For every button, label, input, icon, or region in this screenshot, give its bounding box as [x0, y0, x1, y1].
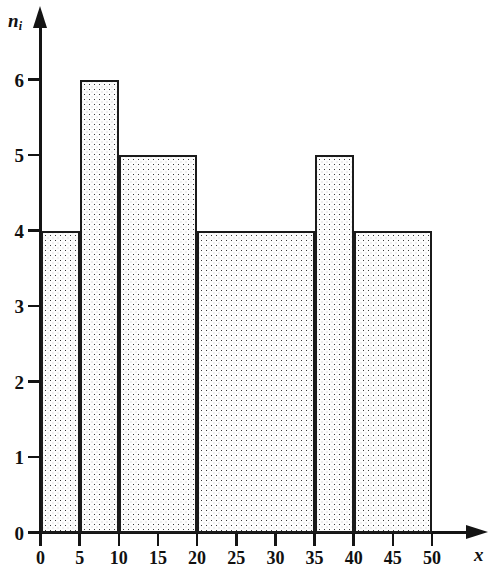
histogram-bar — [80, 80, 119, 533]
histogram-bar — [41, 231, 80, 533]
histogram-bar — [197, 231, 314, 533]
histogram-bar — [354, 231, 432, 533]
histogram-figure: ni x 0123456 05101520253035404550 — [0, 0, 496, 575]
histogram-bars — [0, 0, 496, 575]
histogram-bar — [119, 155, 197, 533]
histogram-bar — [315, 155, 354, 533]
